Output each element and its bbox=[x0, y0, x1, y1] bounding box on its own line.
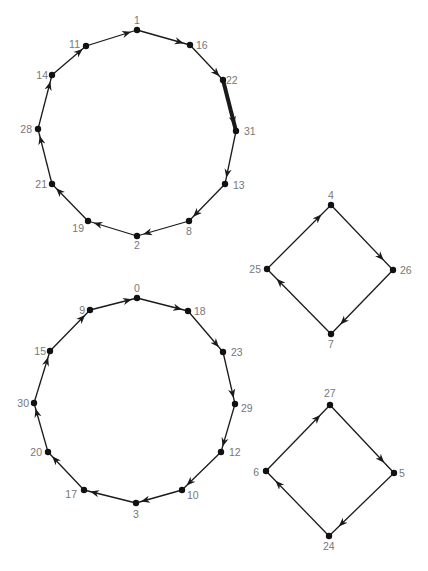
node-27 bbox=[327, 402, 333, 408]
node-label-18: 18 bbox=[194, 305, 206, 317]
node-18 bbox=[185, 308, 191, 314]
edge-13-to-8 bbox=[189, 184, 225, 221]
edge-10-to-3 bbox=[136, 490, 182, 503]
node-label-8: 8 bbox=[186, 225, 192, 237]
edge-17-to-20 bbox=[48, 452, 84, 490]
edge-28-to-14 bbox=[38, 75, 52, 129]
node-30 bbox=[31, 400, 37, 406]
node-label-29: 29 bbox=[241, 402, 253, 414]
node-19 bbox=[85, 218, 91, 224]
node-label-1: 1 bbox=[134, 14, 140, 26]
edge-12-to-10 bbox=[182, 452, 221, 490]
node-label-2: 2 bbox=[134, 239, 140, 251]
node-label-26: 26 bbox=[400, 264, 412, 276]
node-label-19: 19 bbox=[72, 222, 84, 234]
node-28 bbox=[35, 126, 41, 132]
node-15 bbox=[47, 348, 53, 354]
node-1 bbox=[134, 27, 140, 33]
edge-1-to-16 bbox=[137, 30, 190, 45]
edge-4-to-26 bbox=[331, 205, 393, 270]
node-8 bbox=[186, 218, 192, 224]
node-label-10: 10 bbox=[187, 489, 199, 501]
node-4 bbox=[328, 202, 334, 208]
edge-26-to-7 bbox=[331, 270, 393, 334]
node-11 bbox=[83, 43, 89, 49]
figure-caption bbox=[60, 563, 380, 571]
node-label-25: 25 bbox=[249, 263, 261, 275]
node-5 bbox=[391, 470, 397, 476]
edge-27-to-5 bbox=[330, 405, 394, 473]
nodes-layer bbox=[31, 27, 397, 539]
labels-layer: 1162231138219212814110182329121031720301… bbox=[17, 14, 412, 552]
node-23 bbox=[220, 349, 226, 355]
node-label-0: 0 bbox=[134, 282, 140, 294]
edges-layer bbox=[34, 30, 394, 536]
edge-31-to-13 bbox=[225, 131, 236, 184]
edge-20-to-30 bbox=[34, 403, 48, 452]
node-25 bbox=[264, 266, 270, 272]
edge-19-to-21 bbox=[52, 184, 88, 221]
node-label-4: 4 bbox=[328, 189, 334, 201]
cycle-diagram: 1162231138219212814110182329121031720301… bbox=[0, 0, 428, 571]
node-label-6: 6 bbox=[253, 466, 259, 478]
node-3 bbox=[133, 500, 139, 506]
node-label-5: 5 bbox=[399, 467, 405, 479]
node-label-21: 21 bbox=[35, 178, 47, 190]
node-31 bbox=[233, 128, 239, 134]
node-label-31: 31 bbox=[244, 125, 256, 137]
edge-30-to-15 bbox=[34, 351, 50, 403]
node-20 bbox=[45, 449, 51, 455]
edge-24-to-6 bbox=[266, 471, 329, 536]
node-label-9: 9 bbox=[79, 304, 85, 316]
edge-15-to-9 bbox=[50, 310, 90, 351]
node-label-12: 12 bbox=[229, 446, 241, 458]
node-label-27: 27 bbox=[324, 387, 336, 399]
edge-9-to-0 bbox=[90, 298, 137, 310]
node-label-14: 14 bbox=[36, 69, 48, 81]
node-label-20: 20 bbox=[30, 446, 42, 458]
node-label-15: 15 bbox=[34, 345, 46, 357]
node-label-30: 30 bbox=[17, 397, 29, 409]
edge-23-to-29 bbox=[223, 352, 235, 404]
edge-14-to-11 bbox=[52, 46, 86, 75]
edge-7-to-25 bbox=[267, 269, 331, 334]
node-24 bbox=[326, 533, 332, 539]
edge-0-to-18 bbox=[137, 298, 188, 311]
node-6 bbox=[263, 468, 269, 474]
edge-11-to-1 bbox=[86, 30, 137, 46]
node-21 bbox=[49, 181, 55, 187]
node-29 bbox=[232, 401, 238, 407]
edge-3-to-17 bbox=[84, 490, 136, 503]
node-12 bbox=[218, 449, 224, 455]
node-label-3: 3 bbox=[133, 508, 139, 520]
node-label-13: 13 bbox=[233, 179, 245, 191]
edge-22-to-31 bbox=[223, 80, 236, 131]
node-label-24: 24 bbox=[323, 540, 335, 552]
node-label-17: 17 bbox=[65, 488, 77, 500]
node-9 bbox=[87, 307, 93, 313]
node-label-16: 16 bbox=[196, 39, 208, 51]
node-17 bbox=[81, 487, 87, 493]
edge-29-to-12 bbox=[221, 404, 235, 452]
node-10 bbox=[179, 487, 185, 493]
edge-25-to-4 bbox=[267, 205, 331, 269]
node-13 bbox=[222, 181, 228, 187]
edge-18-to-23 bbox=[188, 311, 223, 352]
node-26 bbox=[390, 267, 396, 273]
edge-21-to-28 bbox=[38, 129, 52, 184]
edge-2-to-19 bbox=[88, 221, 137, 236]
node-label-11: 11 bbox=[69, 38, 80, 50]
edge-8-to-2 bbox=[137, 221, 189, 236]
node-7 bbox=[328, 331, 334, 337]
node-label-22: 22 bbox=[226, 74, 238, 86]
node-0 bbox=[134, 295, 140, 301]
node-label-7: 7 bbox=[328, 338, 334, 350]
edge-5-to-24 bbox=[329, 473, 394, 536]
node-label-23: 23 bbox=[231, 346, 243, 358]
edge-6-to-27 bbox=[266, 405, 330, 471]
node-14 bbox=[49, 72, 55, 78]
node-16 bbox=[187, 42, 193, 48]
node-label-28: 28 bbox=[20, 123, 32, 135]
